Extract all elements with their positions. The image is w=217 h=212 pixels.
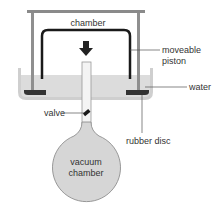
frame-left-post: [31, 13, 34, 93]
label-rubber-disc: rubber disc: [126, 136, 171, 146]
rubber-disc-left: [24, 90, 46, 95]
label-piston: piston: [162, 56, 186, 66]
label-valve: valve: [44, 108, 65, 118]
label-moveable: moveable: [162, 45, 201, 55]
arrow-down-icon: [79, 41, 93, 56]
label-water: water: [188, 82, 211, 92]
label-chamber: chamber: [70, 18, 105, 28]
rubber-disc-right: [126, 90, 149, 95]
label-vacuum: vacuum: [70, 157, 102, 167]
label-vacuum-chamber: chamber: [68, 168, 103, 178]
frame-right-post: [137, 13, 140, 93]
frame-top-bar: [27, 10, 145, 13]
piston-vacuum-diagram: chamber moveable piston water valve rubb…: [0, 0, 217, 212]
